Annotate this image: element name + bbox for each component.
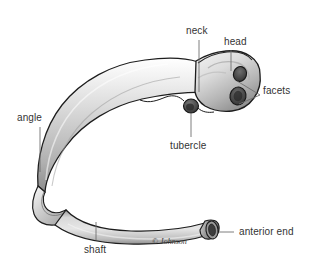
label-tubercle: tubercle: [170, 141, 206, 151]
rib-bone-graphic: [33, 51, 261, 244]
label-angle: angle: [17, 113, 42, 123]
tubercle-inner: [186, 103, 194, 110]
label-neck: neck: [186, 26, 208, 36]
label-anterior-end: anterior end: [239, 227, 294, 237]
label-shaft: shaft: [84, 245, 106, 255]
label-head: head: [224, 37, 247, 47]
rib-anatomy-figure: neck head facets tubercle angle shaft an…: [0, 0, 313, 267]
rib-head-and-neck: [195, 51, 260, 112]
artist-credit: © Johnson: [152, 238, 187, 246]
label-facets: facets: [263, 86, 290, 96]
